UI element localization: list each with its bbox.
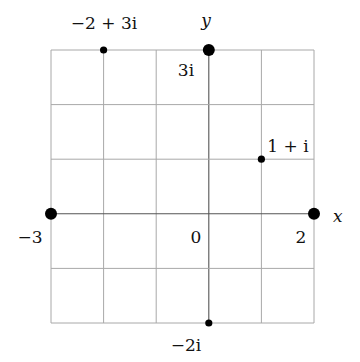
y-axis-label: y bbox=[200, 10, 211, 30]
point-label-3i: 3i bbox=[178, 60, 195, 80]
point-marker bbox=[203, 44, 215, 56]
labels: y x 0 −2 + 3i 3i 1 + i −3 2 −2i bbox=[17, 10, 343, 355]
grid bbox=[51, 50, 314, 323]
point-marker bbox=[100, 46, 107, 53]
point-label-2: 2 bbox=[296, 227, 307, 247]
point-marker bbox=[45, 208, 57, 220]
x-axis-label: x bbox=[333, 206, 343, 226]
point-marker bbox=[258, 156, 265, 163]
point-label-1-plus-i: 1 + i bbox=[267, 136, 309, 156]
points bbox=[45, 44, 320, 327]
point-label-neg2-plus-3i: −2 + 3i bbox=[71, 13, 138, 33]
point-label-neg2i: −2i bbox=[171, 335, 202, 355]
origin-label: 0 bbox=[191, 227, 202, 247]
point-marker bbox=[205, 319, 212, 326]
complex-plane-diagram: y x 0 −2 + 3i 3i 1 + i −3 2 −2i bbox=[0, 0, 360, 362]
point-label-neg3: −3 bbox=[17, 227, 42, 247]
point-marker bbox=[308, 208, 320, 220]
